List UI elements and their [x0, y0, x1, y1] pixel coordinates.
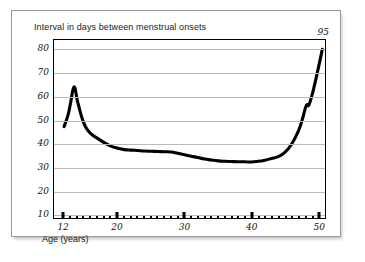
gridline-y-30	[54, 168, 325, 169]
x-tick-major-50	[318, 212, 321, 219]
x-tick-minor-47	[298, 216, 300, 219]
plot-area	[53, 39, 326, 219]
x-tick-minor-41	[258, 216, 260, 219]
x-tick-label-30: 30	[179, 222, 190, 232]
gridline-y-60	[54, 97, 325, 98]
x-tick-minor-49	[312, 216, 314, 219]
gridline-y-70	[54, 73, 325, 74]
x-tick-minor-27	[163, 216, 165, 219]
x-tick-minor-26	[156, 216, 158, 219]
y-tick-label-80: 80	[27, 43, 49, 53]
x-tick-minor-35	[217, 216, 219, 219]
chart-title: Interval in days between menstrual onset…	[34, 22, 206, 32]
peak-value-annotation: 95	[318, 27, 329, 37]
x-tick-minor-28	[170, 216, 172, 219]
x-tick-minor-23	[136, 216, 138, 219]
x-tick-minor-42	[264, 216, 266, 219]
y-tick-label-10: 10	[27, 209, 49, 219]
chart-figure-card: Interval in days between menstrual onset…	[11, 10, 341, 237]
x-tick-minor-31	[190, 216, 192, 219]
x-tick-minor-15	[82, 216, 84, 219]
x-tick-major-12	[62, 212, 65, 219]
x-tick-major-40	[250, 212, 253, 219]
x-axis-label: Age (years)	[42, 234, 89, 244]
x-tick-minor-34	[210, 216, 212, 219]
y-tick-label-60: 60	[27, 91, 49, 101]
y-tick-label-50: 50	[27, 115, 49, 125]
y-tick-label-20: 20	[27, 186, 49, 196]
gridline-y-80	[54, 49, 325, 50]
x-tick-minor-19	[109, 216, 111, 219]
x-tick-minor-38	[237, 216, 239, 219]
x-tick-minor-13	[69, 216, 71, 219]
x-tick-label-40: 40	[246, 222, 257, 232]
x-tick-minor-33	[204, 216, 206, 219]
y-axis-tick-labels: 1020304050607080	[23, 39, 49, 219]
x-tick-label-20: 20	[111, 222, 122, 232]
y-tick-label-70: 70	[27, 67, 49, 77]
x-tick-minor-21	[123, 216, 125, 219]
x-axis-tick-labels: 1220304050	[53, 222, 326, 236]
x-tick-minor-24	[143, 216, 145, 219]
x-tick-minor-17	[96, 216, 98, 219]
x-tick-minor-45	[285, 216, 287, 219]
x-tick-label-12: 12	[57, 222, 68, 232]
x-tick-major-20	[116, 212, 119, 219]
x-tick-minor-44	[278, 216, 280, 219]
x-tick-minor-25	[150, 216, 152, 219]
x-tick-minor-36	[224, 216, 226, 219]
x-tick-minor-22	[130, 216, 132, 219]
gridline-y-40	[54, 144, 325, 145]
x-tick-major-30	[183, 212, 186, 219]
x-tick-minor-37	[231, 216, 233, 219]
x-tick-minor-29	[177, 216, 179, 219]
y-tick-label-30: 30	[27, 162, 49, 172]
x-tick-minor-16	[89, 216, 91, 219]
x-tick-minor-48	[305, 216, 307, 219]
x-tick-label-50: 50	[314, 222, 325, 232]
x-tick-minor-46	[291, 216, 293, 219]
x-tick-minor-14	[76, 216, 78, 219]
x-axis-tick-marks	[53, 211, 326, 219]
x-tick-minor-43	[271, 216, 273, 219]
gridline-y-20	[54, 192, 325, 193]
x-tick-minor-18	[103, 216, 105, 219]
x-tick-minor-32	[197, 216, 199, 219]
y-tick-label-40: 40	[27, 138, 49, 148]
x-tick-minor-39	[244, 216, 246, 219]
gridline-y-50	[54, 121, 325, 122]
plot-inner	[54, 40, 325, 218]
